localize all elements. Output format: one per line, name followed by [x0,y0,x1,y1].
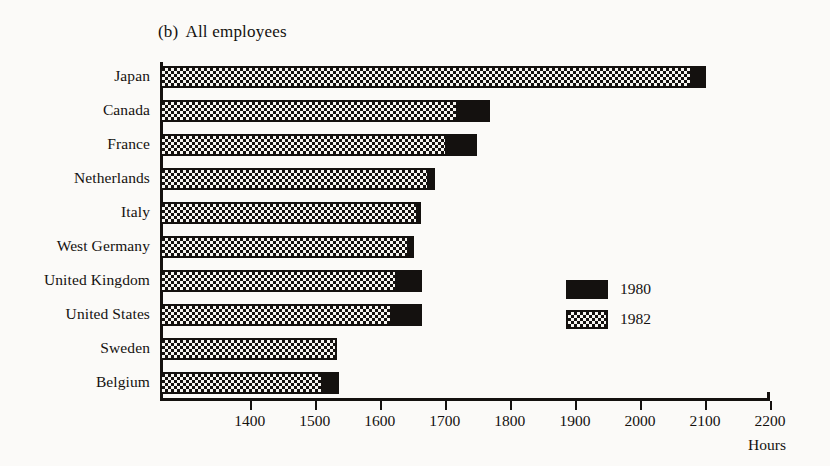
x-axis-unit-label: Hours [748,436,786,454]
category-label-france: France [0,135,150,153]
legend-swatch-1982 [566,310,608,329]
bar-segment-1982 [160,236,409,258]
bar-segment-1982 [160,270,397,292]
x-tick-label: 1900 [559,412,590,430]
legend-entry: 1982 [566,309,651,329]
category-label-canada: Canada [0,101,150,119]
bar-chart-figure: (b)All employees JapanCanadaFranceNether… [0,0,830,466]
category-label-netherlands: Netherlands [0,169,150,187]
category-label-belgium: Belgium [0,373,150,391]
chart-title: (b)All employees [158,22,287,42]
bar-segment-1982 [160,168,429,190]
category-label-west-germany: West Germany [0,237,150,255]
x-tick [250,401,252,410]
x-tick [770,401,772,410]
x-tick-label: 2000 [624,412,655,430]
category-label-united-kingdom: United Kingdom [0,271,150,289]
x-tick [445,401,447,410]
x-tick-label: 2200 [755,412,786,430]
x-tick-label: 1700 [429,412,460,430]
category-label-japan: Japan [0,67,150,85]
category-label-united-states: United States [0,305,150,323]
bar-segment-1982 [160,134,447,156]
x-tick-label: 1800 [494,412,525,430]
x-axis-right-cap [767,392,770,401]
chart-title-number: (b) [158,22,178,41]
legend-label-1980: 1980 [620,280,651,298]
legend-entry: 1980 [566,279,651,299]
x-tick [575,401,577,410]
bar-segment-1982 [160,372,323,394]
chart-title-text: All employees [185,22,286,41]
x-tick [510,401,512,410]
x-tick [705,401,707,410]
x-tick [380,401,382,410]
plot-area: JapanCanadaFranceNetherlandsItalyWest Ge… [160,62,770,402]
bar-segment-1982 [160,100,458,122]
bar-segment-1982 [160,338,337,360]
category-label-sweden: Sweden [0,339,150,357]
legend-label-1982: 1982 [620,310,651,328]
bar-segment-1982 [160,66,692,88]
bar-segment-1982 [160,304,392,326]
legend-swatch-1980 [566,280,608,299]
x-tick-label: 2100 [689,412,720,430]
x-tick [315,401,317,410]
chart-legend: 19801982 [566,279,651,339]
x-tick-label: 1500 [299,412,330,430]
bar-segment-1982 [160,202,418,224]
x-tick-label: 1600 [364,412,395,430]
x-tick-label: 1400 [234,412,265,430]
category-label-italy: Italy [0,203,150,221]
x-tick [640,401,642,410]
